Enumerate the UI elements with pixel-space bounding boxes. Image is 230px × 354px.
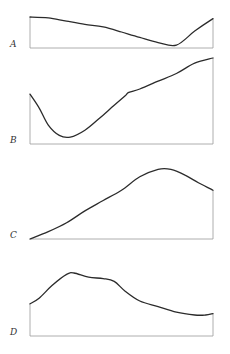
panel-b: B <box>9 58 213 145</box>
panels-group: ABCD <box>9 17 213 337</box>
panel-curve <box>30 169 213 239</box>
panel-c: C <box>10 169 213 240</box>
panel-curve <box>30 273 213 316</box>
panel-label: A <box>9 39 17 49</box>
panel-axis-frame <box>30 58 213 144</box>
panel-curve <box>30 58 213 138</box>
panel-axis-frame <box>30 190 213 239</box>
panel-label: C <box>10 230 17 240</box>
panel-curve <box>30 17 213 46</box>
panel-a: A <box>9 17 213 49</box>
small-multiples-figure: ABCD <box>0 0 230 354</box>
panel-axis-frame <box>30 304 213 336</box>
panel-label: B <box>9 135 17 145</box>
panel-d: D <box>9 273 213 337</box>
panel-label: D <box>9 327 17 337</box>
